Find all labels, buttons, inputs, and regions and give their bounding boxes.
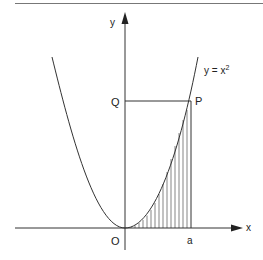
curve-equation-exponent: 2 <box>225 64 229 71</box>
curve-equation-base: y = x <box>204 65 225 76</box>
shaded-area <box>131 110 187 228</box>
curve-equation-label: y = x2 <box>204 64 229 76</box>
origin-label: O <box>111 236 120 247</box>
x-axis-label: x <box>246 223 251 233</box>
y-axis-arrow-icon <box>122 12 129 24</box>
diagram-graphic <box>0 0 263 260</box>
y-axis-label: y <box>110 18 115 28</box>
point-p-label: P <box>195 96 202 107</box>
point-q-label: Q <box>111 97 120 108</box>
diagram: y x Q P O a y = x2 <box>0 0 263 260</box>
x-axis-arrow-icon <box>231 225 243 232</box>
point-a-label: a <box>187 236 193 246</box>
